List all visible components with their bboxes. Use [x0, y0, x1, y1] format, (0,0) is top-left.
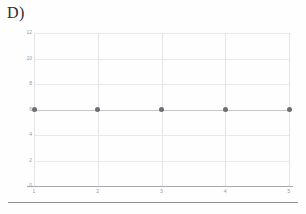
- series-line-segment: [162, 110, 226, 111]
- y-tick-label: 6: [12, 107, 32, 112]
- series-line-segment: [98, 110, 162, 111]
- data-point: [159, 107, 164, 112]
- data-point: [95, 107, 100, 112]
- y-tick-label: 0: [12, 183, 32, 188]
- data-point: [32, 107, 37, 112]
- x-axis-line: [27, 186, 293, 187]
- series-line-segment: [225, 110, 289, 111]
- page-separator-rule: [8, 202, 298, 203]
- chart-plot-area: 02468101212345: [0, 0, 306, 214]
- y-tick-label: 12: [12, 30, 32, 35]
- y-tick-label: 4: [12, 132, 32, 137]
- series-line-segment: [34, 110, 98, 111]
- x-tick-label: 5: [279, 189, 299, 194]
- y-tick-label: 2: [12, 158, 32, 163]
- x-tick-label: 1: [24, 189, 44, 194]
- x-tick-label: 3: [152, 189, 172, 194]
- y-tick-label: 8: [12, 81, 32, 86]
- y-tick-label: 10: [12, 56, 32, 61]
- data-point: [287, 107, 292, 112]
- x-tick-label: 4: [215, 189, 235, 194]
- data-point: [223, 107, 228, 112]
- x-tick-label: 2: [88, 189, 108, 194]
